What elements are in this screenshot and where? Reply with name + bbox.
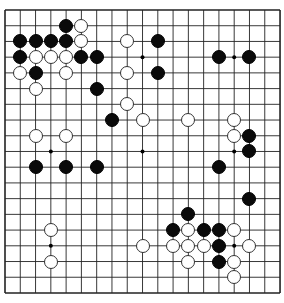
black-stone (242, 129, 256, 143)
black-stone (212, 50, 226, 64)
black-stone (44, 34, 58, 48)
white-stone (197, 239, 211, 253)
white-stone (44, 50, 58, 64)
white-stone (44, 255, 58, 269)
white-stone (227, 270, 241, 284)
white-stone (242, 239, 256, 253)
white-stone (59, 50, 73, 64)
white-stone (136, 239, 150, 253)
star-point-icon (49, 244, 53, 248)
white-stone (29, 82, 43, 96)
black-stone (105, 113, 119, 127)
white-stone (181, 223, 195, 237)
black-stone (212, 255, 226, 269)
black-stone (59, 160, 73, 174)
black-stone (74, 50, 88, 64)
black-stone (29, 34, 43, 48)
black-stone (90, 50, 104, 64)
white-stone (29, 50, 43, 64)
white-stone (120, 66, 134, 80)
black-stone (13, 50, 27, 64)
black-stone (29, 160, 43, 174)
white-stone (181, 239, 195, 253)
black-stone (151, 66, 165, 80)
white-stone (227, 129, 241, 143)
star-point-icon (232, 149, 236, 153)
black-stone (151, 34, 165, 48)
white-stone (74, 34, 88, 48)
white-stone (74, 19, 88, 33)
black-stone (59, 19, 73, 33)
white-stone (227, 223, 241, 237)
black-stone (197, 223, 211, 237)
black-stone (90, 82, 104, 96)
black-stone (242, 50, 256, 64)
white-stone (181, 113, 195, 127)
black-stone (212, 239, 226, 253)
white-stone (136, 113, 150, 127)
star-point-icon (141, 149, 145, 153)
white-stone (166, 239, 180, 253)
star-point-icon (232, 55, 236, 59)
black-stone (212, 160, 226, 174)
white-stone (59, 129, 73, 143)
white-stone (120, 97, 134, 111)
white-stone (13, 66, 27, 80)
black-stone (90, 160, 104, 174)
white-stone (120, 34, 134, 48)
black-stone (29, 66, 43, 80)
star-point-icon (141, 55, 145, 59)
white-stone (181, 255, 195, 269)
white-stone (59, 66, 73, 80)
black-stone (166, 223, 180, 237)
black-stone (13, 34, 27, 48)
star-point-icon (232, 244, 236, 248)
black-stone (242, 144, 256, 158)
white-stone (44, 223, 58, 237)
black-stone (181, 207, 195, 221)
board-grid (0, 0, 284, 303)
black-stone (59, 34, 73, 48)
star-point-icon (49, 149, 53, 153)
black-stone (242, 192, 256, 206)
go-board[interactable] (0, 0, 284, 303)
white-stone (227, 113, 241, 127)
black-stone (212, 223, 226, 237)
white-stone (29, 129, 43, 143)
white-stone (227, 255, 241, 269)
